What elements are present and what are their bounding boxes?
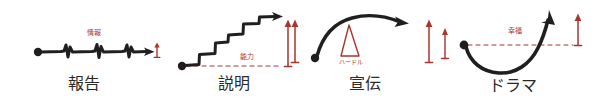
flat-trend-line — [41, 45, 146, 58]
panel-senden-annotation: ハードル — [339, 58, 363, 65]
measure-arrow-left — [291, 20, 298, 63]
arrowhead-icon — [541, 10, 555, 25]
panel-senden-caption: 宣伝 — [349, 74, 381, 93]
panel-houkoku-annotation: 情報 — [87, 28, 101, 37]
diagram-canvas: 情報 報告 能力 — [0, 0, 613, 103]
panel-setsumei-annotation: 能力 — [240, 52, 254, 61]
panel-senden: ハードル 宣伝 — [291, 16, 432, 93]
measure-arrow-right — [574, 14, 581, 46]
measure-arrow-tall — [284, 20, 291, 67]
arc-curve — [317, 16, 400, 56]
panel-setsumei: 能力 説明 — [178, 12, 292, 93]
measure-arrow-left — [442, 28, 449, 59]
panel-drama: 幸福 ドラマ — [442, 10, 582, 95]
measure-arrow-small — [154, 43, 160, 58]
panel-setsumei-caption: 説明 — [218, 74, 250, 93]
diagram-svg: 情報 報告 能力 — [0, 0, 613, 103]
panel-drama-annotation: 幸福 — [508, 26, 522, 35]
hurdle-triangle-icon — [341, 25, 359, 56]
panel-houkoku: 情報 報告 — [34, 28, 160, 93]
panel-drama-caption: ドラマ — [489, 76, 537, 95]
panel-houkoku-caption: 報告 — [68, 74, 100, 93]
staircase-line — [185, 17, 275, 66]
measure-arrow-right — [425, 20, 432, 63]
u-curve — [466, 20, 548, 73]
